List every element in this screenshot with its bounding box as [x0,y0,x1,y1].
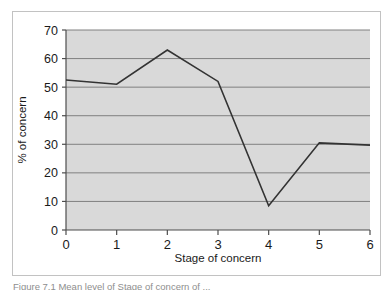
x-axis-title: Stage of concern [175,252,262,264]
x-tick-label: 1 [113,237,120,252]
x-axis-ticks: 0123456 [62,230,373,252]
y-tick-label: 10 [44,195,58,209]
y-tick-label: 20 [44,166,58,180]
figure-caption: Figure 7.1 Mean level of Stage of concer… [13,281,383,290]
y-tick-label: 70 [44,24,58,38]
x-tick-label: 4 [265,237,272,252]
plot-background [66,30,370,230]
x-tick-label: 5 [316,237,323,252]
y-tick-label: 0 [51,224,58,238]
y-tick-label: 60 [44,52,58,66]
y-axis-title: % of concern [16,96,28,163]
x-tick-label: 0 [62,237,69,252]
x-tick-label: 6 [366,237,373,252]
y-tick-label: 30 [44,138,58,152]
x-tick-label: 3 [214,237,221,252]
y-tick-label: 50 [44,81,58,95]
y-axis-ticks: 010203040506070 [44,24,66,238]
y-tick-label: 40 [44,109,58,123]
x-tick-label: 2 [164,237,171,252]
